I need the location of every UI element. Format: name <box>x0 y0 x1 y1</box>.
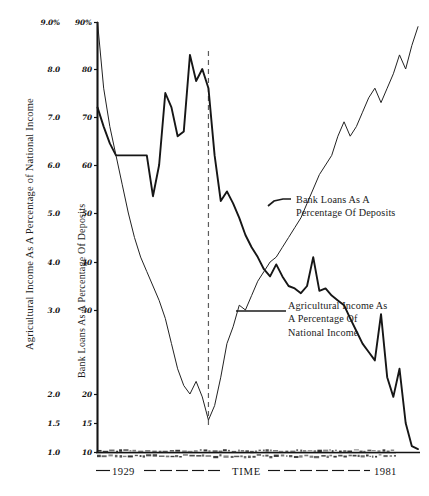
y-tick-label-right-60: 60 <box>68 161 92 170</box>
x-axis-label-time: TIME <box>232 466 261 477</box>
annotation-leader-lines <box>236 199 291 311</box>
x-axis-end-year: 1981 <box>374 466 397 477</box>
annotation-agricultural-income: Agricultural Income As A Percentage Of N… <box>288 299 388 339</box>
y-tick-label-left-6: 6.0 <box>30 161 60 170</box>
y-tick-label-right-80: 80 <box>68 65 92 74</box>
year-labels-scribble-band <box>96 447 396 460</box>
y-tick-label-left-5: 5.0 <box>30 209 60 218</box>
y-tick-label-left-1: 1.0 <box>30 448 60 457</box>
plot-area <box>0 0 429 496</box>
y-tick-label-right-30: 30 <box>68 306 92 315</box>
annotation-bank-line-1: Bank Loans As A <box>296 193 395 206</box>
x-axis-start-year: 1929 <box>112 466 135 477</box>
y-tick-label-left-1.5: 1.5 <box>30 419 60 428</box>
data-series-layer <box>98 22 419 449</box>
y-tick-label-left-2: 2.0 <box>30 390 60 399</box>
annotation-ag-line-3: National Income <box>288 326 388 339</box>
annotation-ag-line-1: Agricultural Income As <box>288 299 388 312</box>
axis-lines <box>96 22 420 453</box>
y-tick-label-left-9: 9.0% <box>30 18 60 27</box>
y-tick-label-right-90: 90% <box>68 18 92 27</box>
annotation-bank-line-2: Percentage Of Deposits <box>296 206 395 219</box>
chart-figure: Agricultural Income As A Percentage of N… <box>0 0 429 496</box>
y-tick-label-right-10: 10 <box>68 448 92 457</box>
y-tick-label-right-40: 40 <box>68 258 92 267</box>
annotation-ag-line-2: A Percentage Of <box>288 312 388 325</box>
y-tick-label-right-15: 15 <box>68 419 92 428</box>
y-tick-label-right-70: 70 <box>68 113 92 122</box>
y-tick-label-left-8: 8.0 <box>30 65 60 74</box>
y-tick-label-left-7: 7.0 <box>30 113 60 122</box>
annotation-bank-loans: Bank Loans As A Percentage Of Deposits <box>296 193 395 220</box>
y-tick-label-left-3: 3.0 <box>30 306 60 315</box>
y-tick-label-right-20: 20 <box>68 390 92 399</box>
y-tick-label-right-50: 50 <box>68 209 92 218</box>
series-bank-loans <box>98 22 419 420</box>
y-tick-label-left-4: 4.0 <box>30 258 60 267</box>
series-agricultural-income <box>98 55 419 449</box>
